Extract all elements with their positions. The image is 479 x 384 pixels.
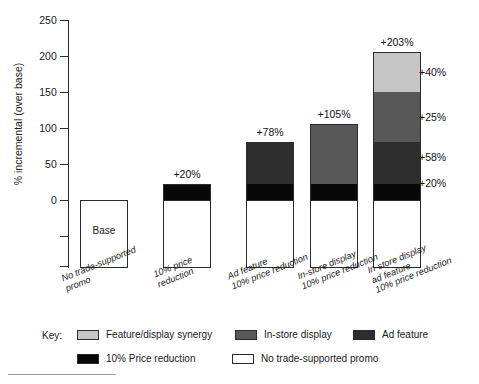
y-tick-150 bbox=[60, 92, 68, 93]
legend-swatch-instore-icon bbox=[235, 330, 257, 340]
legend-row-2: 10% Price reduction No trade-supported p… bbox=[0, 348, 479, 370]
y-tick-0 bbox=[60, 200, 68, 201]
bar-group-5: +203% bbox=[373, 52, 421, 268]
legend-swatch-price-icon bbox=[77, 354, 99, 364]
y-tick-minor-1 bbox=[60, 236, 68, 237]
y-tick-label-50: 50 bbox=[45, 158, 57, 170]
y-tick-label-250: 250 bbox=[39, 14, 57, 26]
chart-legend: Key: Feature/display synergy In-store di… bbox=[0, 326, 479, 370]
legend-row-1: Key: Feature/display synergy In-store di… bbox=[0, 326, 479, 348]
annotation-instore-25: +25% bbox=[419, 111, 446, 123]
y-tick-minor-2 bbox=[60, 266, 68, 267]
legend-swatch-adfeature-icon bbox=[353, 330, 375, 340]
y-tick-label-200: 200 bbox=[39, 50, 57, 62]
bar-4-total-label: +105% bbox=[289, 108, 379, 120]
legend-item-no-trade-supported-promo: No trade-supported promo bbox=[232, 353, 378, 364]
bar-4-segment-in-store-display bbox=[310, 124, 358, 184]
bar-5-segment-ad-feature bbox=[373, 142, 421, 184]
y-tick-200 bbox=[60, 56, 68, 57]
annotation-price-20: +20% bbox=[419, 177, 446, 189]
legend-label-base: No trade-supported promo bbox=[261, 353, 378, 364]
legend-item-feature-display-synergy: Feature/display synergy bbox=[77, 329, 212, 340]
bar-5-segment-price-reduction bbox=[373, 184, 421, 200]
y-tick-50 bbox=[60, 164, 68, 165]
bar-2-segment-price-reduction bbox=[163, 184, 211, 200]
legend-item-in-store-display: In-store display bbox=[235, 329, 332, 340]
legend-label-price: 10% Price reduction bbox=[106, 353, 196, 364]
bar-4-segment-price-reduction bbox=[310, 184, 358, 200]
y-tick-label-100: 100 bbox=[39, 122, 57, 134]
legend-swatch-synergy-icon bbox=[77, 330, 99, 340]
footer-rule bbox=[8, 374, 116, 375]
y-tick-250 bbox=[60, 20, 68, 21]
legend-item-ad-feature: Ad feature bbox=[353, 329, 428, 340]
y-tick-label-0: 0 bbox=[51, 194, 57, 206]
legend-title: Key: bbox=[42, 330, 62, 341]
x-axis-label-2: 10% price reduction bbox=[152, 255, 198, 290]
bar-2-total-label: +20% bbox=[142, 168, 232, 180]
bar-3-total-label: +78% bbox=[225, 126, 315, 138]
bar-5-segment-feature-display-synergy bbox=[373, 52, 421, 92]
bar-5-total-label: +203% bbox=[352, 36, 442, 48]
y-axis-line bbox=[68, 20, 69, 268]
bar-3-segment-ad-feature bbox=[246, 142, 294, 184]
legend-item-price-reduction: 10% Price reduction bbox=[77, 353, 196, 364]
legend-label-adfeature: Ad feature bbox=[382, 329, 428, 340]
bar-group-4: +105% bbox=[310, 124, 358, 268]
bar-5-segment-in-store-display bbox=[373, 92, 421, 142]
y-axis-title: % incremental (over base) bbox=[12, 44, 24, 204]
y-tick-100 bbox=[60, 128, 68, 129]
legend-label-synergy: Feature/display synergy bbox=[106, 329, 212, 340]
legend-swatch-base-icon bbox=[232, 354, 254, 364]
incremental-volume-stacked-bar-chart: 250 200 150 100 50 0 % incremental (over… bbox=[0, 0, 479, 384]
annotation-adfeature-58: +58% bbox=[419, 151, 446, 163]
legend-label-instore: In-store display bbox=[264, 329, 332, 340]
y-tick-label-150: 150 bbox=[39, 86, 57, 98]
annotation-synergy-40: +40% bbox=[419, 66, 446, 78]
bar-3-segment-price-reduction bbox=[246, 184, 294, 200]
bar-1-base-label: Base bbox=[81, 225, 127, 236]
